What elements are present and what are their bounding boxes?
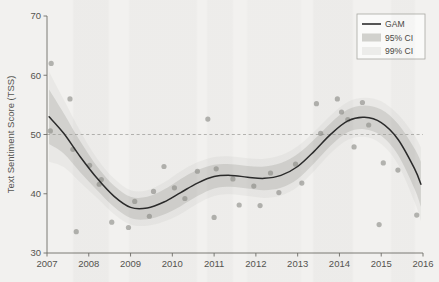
data-point [360,100,365,105]
legend-label[interactable]: 99% CI [385,46,413,56]
data-point [147,214,152,219]
data-point [214,166,219,171]
data-point [49,61,54,66]
legend-swatch-band [362,34,381,42]
x-tick-label: 2015 [371,258,392,269]
data-point [109,220,114,225]
legend[interactable]: GAM95% CI99% CI [357,14,425,59]
data-point [395,167,400,172]
x-tick-label: 2008 [78,258,99,269]
data-point [351,144,356,149]
y-tick-label: 30 [30,247,41,258]
confidence-bands [49,72,421,226]
figure-container: 3040506070200720082009201020112012201320… [0,0,439,282]
x-tick-label: 2013 [287,258,308,269]
y-tick-label: 70 [30,10,41,21]
sentiment-gam-chart: 3040506070200720082009201020112012201320… [0,0,439,282]
legend-label[interactable]: GAM [385,19,405,29]
y-tick-label: 40 [30,188,41,199]
data-point [299,180,304,185]
y-tick-label: 50 [30,129,41,140]
data-point [132,199,137,204]
data-point [414,212,419,217]
data-point [195,169,200,174]
data-point [205,116,210,121]
data-point [172,185,177,190]
ci-band-99CI [49,72,421,226]
data-point [251,183,256,188]
data-point [314,101,319,106]
x-tick-label: 2007 [36,258,57,269]
x-tick-label: 2010 [162,258,183,269]
legend-swatch-band [362,47,381,55]
data-point [182,196,187,201]
data-point [335,96,340,101]
data-point [377,222,382,227]
y-tick-label: 60 [30,70,41,81]
x-tick-label: 2011 [204,258,224,269]
data-point [161,164,166,169]
y-axis-title: Text Sentiment Score (TSS) [5,76,16,194]
data-point [230,176,235,181]
x-tick-label: 2016 [412,258,433,269]
data-point [151,189,156,194]
x-tick-label: 2014 [329,258,350,269]
scatter-points [48,61,420,234]
data-point [74,229,79,234]
data-point [366,122,371,127]
x-tick-label: 2009 [120,258,141,269]
data-point [126,225,131,230]
data-point [339,109,344,114]
legend-label[interactable]: 95% CI [385,33,413,43]
data-point [212,215,217,220]
data-point [67,96,72,101]
data-point [48,128,53,133]
data-point [257,203,262,208]
data-point [318,131,323,136]
x-tick-label: 2012 [245,258,266,269]
data-point [237,202,242,207]
data-point [268,170,273,175]
data-point [381,160,386,165]
data-point [276,190,281,195]
